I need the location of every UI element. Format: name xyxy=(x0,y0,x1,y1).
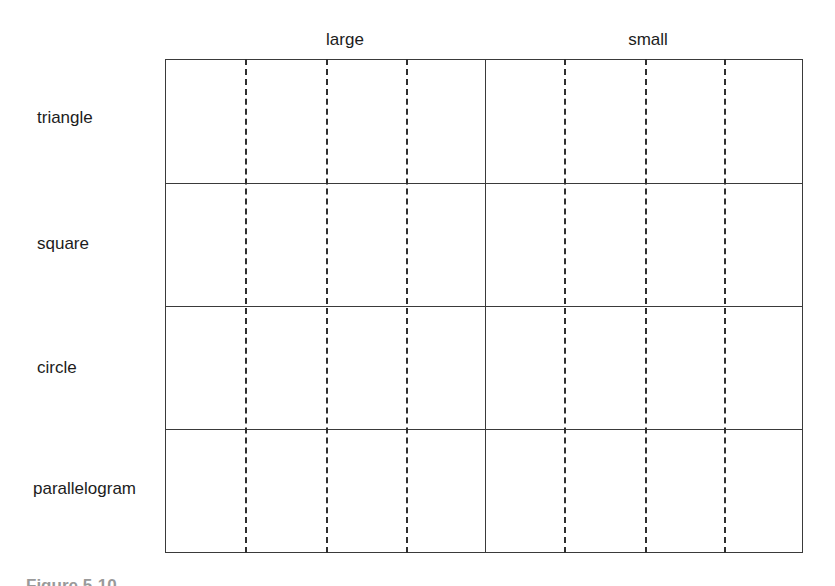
figure-caption: Figure 5-10 xyxy=(26,576,286,586)
column-group-label-small: small xyxy=(588,30,708,50)
grid-row-separator-3 xyxy=(165,429,803,430)
grid-row-separator-2 xyxy=(165,306,803,307)
grid-row-separator-1 xyxy=(165,183,803,184)
row-label-circle: circle xyxy=(37,358,77,378)
row-label-parallelogram: parallelogram xyxy=(33,479,136,499)
row-label-triangle: triangle xyxy=(37,108,93,128)
grid-column-rule-small-3 xyxy=(724,59,726,553)
grid-column-rule-large-3 xyxy=(406,59,408,553)
grid-column-rule-small-1 xyxy=(564,59,566,553)
column-group-label-large: large xyxy=(285,30,405,50)
grid-column-rule-large-1 xyxy=(245,59,247,553)
figure-root: large small triangle square circle paral… xyxy=(0,0,835,586)
row-label-square: square xyxy=(37,234,89,254)
grid-group-divider xyxy=(485,59,486,553)
grid-column-rule-large-2 xyxy=(326,59,328,553)
grid-column-rule-small-2 xyxy=(645,59,647,553)
response-grid xyxy=(165,59,803,553)
